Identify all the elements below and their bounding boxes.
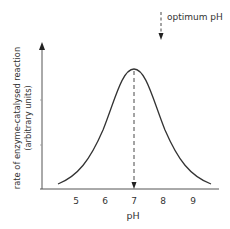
enzyme-activity-curve	[58, 69, 211, 184]
annotation-arrow-icon	[159, 33, 164, 40]
x-tick-label: 5	[73, 196, 79, 206]
x-axis-label: pH	[126, 210, 139, 221]
x-tick-label: 7	[131, 196, 137, 206]
ph-enzyme-chart: optimum pH 5 6 7 8 9 pH rate of enzyme-c…	[0, 0, 230, 229]
x-tick-label: 9	[190, 196, 196, 206]
x-tick-label: 6	[102, 196, 108, 206]
optimum-arrow-icon	[132, 182, 137, 189]
annotation-label: optimum pH	[167, 12, 223, 22]
y-axis-label: rate of enzyme-catalysed reaction	[12, 47, 22, 189]
x-tick-label: 8	[160, 196, 166, 206]
y-axis-sublabel: (arbitrary units)	[23, 85, 33, 151]
y-axis-arrow-icon	[39, 42, 45, 50]
